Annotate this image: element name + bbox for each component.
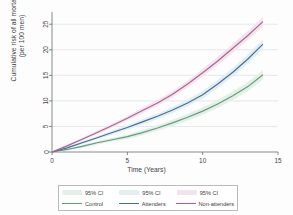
y-tick-label: 25 [43, 20, 50, 28]
legend-item-nonattenders: Non-attenders [176, 201, 234, 207]
chart-legend: 95% CI 95% CI 95% CI Control Attenders [58, 185, 238, 211]
plot-area: 0510152025051015 [0, 0, 293, 178]
legend-item-ci-attenders: 95% CI [119, 190, 176, 196]
line-swatch-nonattenders [176, 203, 196, 204]
x-tick-label: 0 [50, 157, 54, 164]
legend-label-ci-nonattenders: 95% CI [200, 190, 218, 196]
legend-row-ci: 95% CI 95% CI 95% CI [62, 187, 234, 198]
legend-item-attenders: Attenders [119, 201, 176, 207]
legend-item-ci-nonattenders: 95% CI [177, 190, 234, 196]
x-tick-label: 15 [274, 157, 282, 164]
legend-label-ci-control: 95% CI [85, 190, 103, 196]
ci-swatch-control [62, 190, 82, 195]
line-swatch-attenders [119, 203, 139, 204]
x-axis-title: Time (Years) [0, 166, 293, 173]
legend-label-nonattenders: Non-attenders [199, 201, 234, 207]
legend-item-ci-control: 95% CI [62, 190, 119, 196]
chart-figure: Cumulative risk of all mortality (per 10… [0, 0, 293, 215]
legend-label-control: Control [85, 201, 103, 207]
y-tick-label: 20 [43, 46, 50, 54]
x-tick-label: 10 [199, 157, 207, 164]
legend-label-ci-attenders: 95% CI [142, 190, 160, 196]
legend-row-series: Control Attenders Non-attenders [62, 198, 234, 209]
line-swatch-control [62, 203, 82, 204]
x-tick-label: 5 [126, 157, 130, 164]
y-tick-label: 10 [43, 97, 50, 105]
y-tick-label: 5 [43, 124, 50, 128]
ci-swatch-attenders [119, 190, 139, 195]
legend-label-attenders: Attenders [142, 201, 166, 207]
chart-svg: 0510152025051015 [0, 0, 293, 178]
ci-band-non-attenders [52, 17, 263, 152]
y-tick-label: 0 [43, 150, 50, 154]
y-tick-label: 15 [43, 71, 50, 79]
legend-item-control: Control [62, 201, 119, 207]
series-line-non-attenders [52, 22, 263, 152]
ci-swatch-nonattenders [177, 190, 197, 195]
